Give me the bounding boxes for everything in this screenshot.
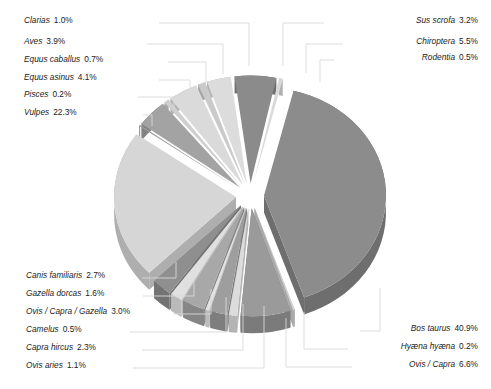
species-name: Gazella dorcas xyxy=(26,288,81,298)
species-name: Equus caballus xyxy=(24,54,80,64)
percent-value: 40.9% xyxy=(454,323,478,333)
leader-line xyxy=(360,288,380,331)
slice-label: Gazella dorcas1.6% xyxy=(26,288,105,298)
species-name: Hyæna hyæna xyxy=(401,341,456,351)
percent-value: 1.1% xyxy=(67,360,87,370)
percent-value: 1.0% xyxy=(54,15,74,25)
species-name: Capra hircus xyxy=(26,342,73,352)
species-name: Camelus xyxy=(26,324,59,334)
percent-value: 3.2% xyxy=(459,15,479,25)
slice-label: Camelus0.5% xyxy=(26,324,82,334)
species-name: Canis familiaris xyxy=(26,270,82,280)
pie-chart-figure: Chiroptera 5.5%Rodentia 0.5%Sus scrofa 3… xyxy=(0,0,491,389)
slice-outer-face xyxy=(229,315,237,333)
leader-line xyxy=(304,312,348,349)
species-name: Chiroptera xyxy=(416,36,455,46)
leader-line xyxy=(286,318,352,367)
species-name: Ovis aries xyxy=(26,360,63,370)
species-name: Sus scrofa xyxy=(416,15,456,25)
slice-label: Chiroptera5.5% xyxy=(416,36,478,46)
species-name: Rodentia xyxy=(422,52,456,62)
percent-value: 2.7% xyxy=(86,270,106,280)
slice-label: Ovis aries1.1% xyxy=(26,360,86,370)
percent-value: 1.6% xyxy=(85,288,105,298)
slice-label: Aves3.9% xyxy=(23,36,66,46)
slice-label: Canis familiaris2.7% xyxy=(26,270,106,280)
percent-value: 3.9% xyxy=(46,36,66,46)
percent-value: 0.2% xyxy=(459,341,479,351)
slice-label: Sus scrofa3.2% xyxy=(416,15,479,25)
leader-line xyxy=(147,44,223,74)
slice-label: Rodentia0.5% xyxy=(422,52,479,62)
slice-label: Ovis / Capra6.6% xyxy=(409,359,479,369)
slice-label: Clarias1.0% xyxy=(24,15,73,25)
species-name: Clarias xyxy=(24,15,50,25)
percent-value: 0.5% xyxy=(459,52,479,62)
species-name: Bos taurus xyxy=(411,323,451,333)
percent-value: 0.7% xyxy=(84,54,104,64)
percent-value: 6.6% xyxy=(459,359,479,369)
leader-line xyxy=(306,44,343,73)
slice-label: Hyæna hyæna0.2% xyxy=(401,341,479,351)
percent-value: 0.5% xyxy=(63,324,83,334)
slice-outer-face xyxy=(293,310,294,327)
pie-slices-layer: Chiroptera 5.5%Rodentia 0.5%Sus scrofa 3… xyxy=(114,76,386,334)
slice-label: Vulpes22.3% xyxy=(24,107,77,117)
species-name: Ovis / Capra / Gazella xyxy=(26,306,108,316)
leader-line xyxy=(283,23,324,66)
percent-value: 0.2% xyxy=(52,89,72,99)
species-name: Vulpes xyxy=(24,107,49,117)
slice-outer-face xyxy=(205,310,209,328)
slice-label: Pisces0.2% xyxy=(24,89,72,99)
leader-line xyxy=(159,23,249,66)
slice-label: Ovis / Capra / Gazella3.0% xyxy=(26,306,131,316)
percent-value: 22.3% xyxy=(53,107,77,117)
species-name: Ovis / Capra xyxy=(409,359,455,369)
percent-value: 3.0% xyxy=(111,306,131,316)
species-name: Pisces xyxy=(24,89,48,99)
slice-label: Capra hircus2.3% xyxy=(26,342,97,352)
percent-value: 2.3% xyxy=(77,342,97,352)
percent-value: 5.5% xyxy=(459,36,479,46)
slice-label: Equus asinus4.1% xyxy=(24,72,97,82)
slice-label: Equus caballus0.7% xyxy=(24,54,104,64)
slice-label: Bos taurus40.9% xyxy=(411,323,479,333)
leader-line xyxy=(320,60,334,82)
species-name: Equus asinus xyxy=(24,72,74,82)
percent-value: 4.1% xyxy=(78,72,98,82)
species-name: Aves xyxy=(23,36,42,46)
